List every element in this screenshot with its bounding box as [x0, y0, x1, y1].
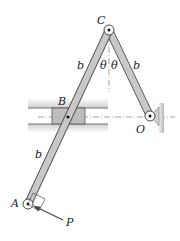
label-theta-left: θ [100, 59, 107, 72]
label-b-upper-left: b [77, 59, 84, 72]
label-C: C [97, 14, 106, 27]
label-b-right: b [133, 59, 140, 72]
label-P: P [65, 216, 74, 229]
label-b-lower-left: b [35, 148, 42, 161]
force-arrow-P [33, 206, 63, 221]
label-theta-right: θ [111, 59, 118, 72]
diagram-canvas: C b θ θ b B O b A P [0, 0, 180, 241]
label-B: B [57, 95, 66, 108]
label-A: A [10, 197, 19, 210]
pin-O [145, 111, 155, 121]
pin-C [104, 25, 114, 35]
link-CO [109, 30, 150, 116]
pin-B [66, 115, 69, 118]
mechanism-diagram: C b θ θ b B O b A P [0, 0, 180, 241]
label-O: O [136, 123, 145, 136]
